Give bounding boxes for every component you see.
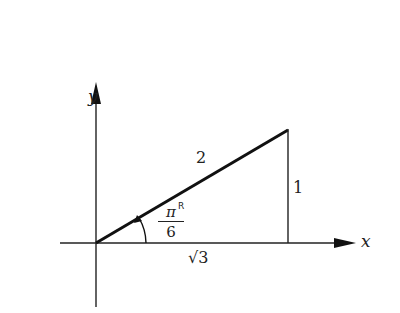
angle-radian-superscript: R bbox=[178, 201, 184, 211]
x-axis-label: x bbox=[361, 233, 371, 250]
adjacent-side-label: √3 bbox=[188, 250, 208, 266]
angle-label: π R 6 bbox=[158, 204, 184, 240]
hypotenuse-line bbox=[96, 130, 288, 243]
diagram-canvas: y x 2 1 √3 π R 6 bbox=[0, 0, 400, 313]
opposite-side-label: 1 bbox=[293, 180, 303, 196]
angle-denominator: 6 bbox=[158, 224, 184, 240]
angle-arc bbox=[139, 218, 146, 243]
fraction-bar bbox=[158, 221, 184, 222]
x-axis-arrow-icon bbox=[334, 238, 356, 248]
y-axis-label: y bbox=[88, 88, 98, 105]
hypotenuse-label: 2 bbox=[196, 150, 206, 166]
